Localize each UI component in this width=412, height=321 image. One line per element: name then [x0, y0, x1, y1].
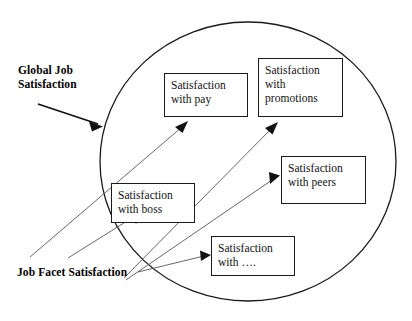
node-other-line-1: Satisfaction — [218, 241, 294, 255]
node-satisfaction-with-pay[interactable]: Satisfaction with pay — [164, 73, 248, 117]
node-promotions-line-1: Satisfaction — [265, 63, 342, 77]
node-peers-line-2: with peers — [288, 175, 365, 189]
global-job-satisfaction-label: Global Job Satisfaction — [18, 63, 77, 91]
node-boss-line-2: with boss — [118, 202, 194, 216]
node-pay-line-2: with pay — [171, 92, 247, 106]
node-boss-line-1: Satisfaction — [118, 188, 194, 202]
node-other-line-2: with …. — [218, 255, 294, 269]
node-promotions-line-2: with — [265, 77, 342, 91]
node-pay-line-1: Satisfaction — [171, 78, 247, 92]
node-satisfaction-with-other[interactable]: Satisfaction with …. — [211, 236, 295, 276]
diagram-canvas: Global Job Satisfaction Job Facet Satisf… — [0, 0, 412, 321]
node-satisfaction-with-promotions[interactable]: Satisfaction with promotions — [258, 58, 343, 117]
global-label-line-1: Global Job — [18, 63, 77, 77]
node-satisfaction-with-boss[interactable]: Satisfaction with boss — [111, 183, 195, 223]
global-label-line-2: Satisfaction — [18, 77, 77, 91]
node-promotions-line-3: promotions — [265, 91, 342, 105]
node-peers-line-1: Satisfaction — [288, 161, 365, 175]
node-satisfaction-with-peers[interactable]: Satisfaction with peers — [281, 156, 366, 204]
job-facet-satisfaction-label: Job Facet Satisfaction — [17, 265, 127, 279]
connector-facet-to-other — [138, 251, 211, 273]
facet-label-line-1: Job Facet Satisfaction — [17, 265, 127, 279]
connector-global-to-circle — [38, 104, 103, 132]
